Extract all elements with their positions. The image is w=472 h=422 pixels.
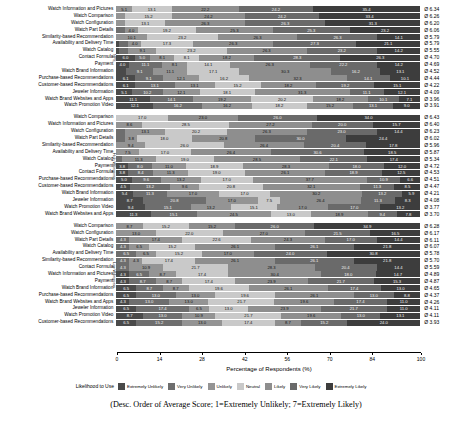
chart-row: Watch Promotion Video12.116.216.218.215.… bbox=[0, 102, 472, 109]
legend-item[interactable]: Very Likely bbox=[290, 383, 320, 390]
bar-segment: 19.6 bbox=[281, 313, 341, 319]
bar-segment: 26.3 bbox=[227, 48, 307, 54]
row-label: Watch Comparison bbox=[0, 223, 116, 230]
row-average: Ø 5.34 bbox=[420, 156, 472, 163]
bar-segment: 20.0 bbox=[312, 122, 373, 128]
bar-segment: 19.2 bbox=[138, 27, 196, 33]
row-label: Similarity-based Recommendation bbox=[0, 257, 116, 264]
row-label: Similarity-based Recommendation bbox=[0, 142, 116, 149]
bar-segment: 3.8 bbox=[116, 170, 128, 176]
row-label: Payment bbox=[0, 61, 116, 68]
bar-segment: 18.0 bbox=[321, 271, 376, 277]
bar-segment: 19.6 bbox=[189, 285, 249, 291]
chart-row: Purchase-based Recommendations6.19.112.1… bbox=[0, 75, 472, 82]
row-label: Payment bbox=[0, 278, 116, 285]
legend-item[interactable]: Unlikely bbox=[208, 383, 232, 390]
bar-segment: 20.8 bbox=[192, 135, 255, 141]
row-label: Customer-based Recommendations bbox=[0, 82, 116, 89]
row-label: Contact Formula bbox=[0, 169, 116, 176]
chart-row: Watch Part Details3.818.020.830.024.4Ø 6… bbox=[0, 135, 472, 142]
chart-row: Watch Part Details4.317.422.624.317.014.… bbox=[0, 237, 472, 244]
stacked-bar: 6.517.46.513.023.921.711.0 bbox=[116, 306, 420, 312]
bar-segment: 12.0 bbox=[384, 163, 420, 169]
x-tick-label: 28 bbox=[199, 356, 205, 362]
x-tick-label: 100 bbox=[417, 356, 425, 362]
bar-segment: 20.8 bbox=[143, 197, 206, 203]
stacked-bar: 6.515.213.017.48.715.224.0 bbox=[116, 320, 420, 326]
bar-segment: 10.1 bbox=[390, 75, 421, 81]
bar-segment: 28.3 bbox=[228, 264, 314, 270]
bar-segment: 14.4 bbox=[377, 237, 421, 243]
bar-segment: 15.2 bbox=[215, 82, 261, 88]
legend-title: Likelihood to Use bbox=[0, 383, 118, 389]
bar-segment: 10.9 bbox=[129, 264, 162, 270]
bar-segment: 17.4 bbox=[129, 237, 182, 243]
bar-segment: 34.9 bbox=[314, 223, 420, 229]
row-label: Watch Information and Pictures bbox=[0, 121, 116, 128]
chart-row: Payment4.38.78.717.423.921.715.3Ø 4.87 bbox=[0, 278, 472, 285]
bar-segment: 17.0 bbox=[219, 191, 271, 197]
bar-segment: 23.0 bbox=[307, 129, 377, 135]
bar-segment: 24.3 bbox=[251, 237, 325, 243]
bar-segment: 27.2 bbox=[229, 122, 312, 128]
bar-segment: 19.6 bbox=[215, 292, 275, 298]
row-average: Ø 6.11 bbox=[420, 237, 472, 244]
bar-segment: 19.0 bbox=[188, 170, 246, 176]
legend-item[interactable]: Likely bbox=[265, 383, 285, 390]
bar-segment: 17.0 bbox=[201, 177, 253, 183]
chart-row: Watch Part Details4.019.225.325.323.2Ø 6… bbox=[0, 27, 472, 34]
bar-segment: 8.7 bbox=[136, 285, 162, 291]
bar-segment: 6.5 bbox=[129, 271, 149, 277]
bar-segment: 6.1 bbox=[116, 75, 135, 81]
legend-item[interactable]: Very Unlikely bbox=[168, 383, 202, 390]
legend-item[interactable]: Neutral bbox=[237, 383, 260, 390]
bar-segment: 16.2 bbox=[153, 103, 202, 109]
chart-row: Watch Catalog4.36.515.226.126.121.8Ø 6.0… bbox=[0, 243, 472, 250]
legend-item[interactable]: Extremely Unlikely bbox=[118, 383, 163, 390]
bar-segment: 13.2 bbox=[161, 177, 201, 183]
bar-segment bbox=[119, 41, 128, 47]
bar-segment: 18.2 bbox=[261, 82, 316, 88]
bar-segment: 8.7 bbox=[129, 278, 155, 284]
bar-segment: 13.1 bbox=[380, 68, 420, 74]
bar-segment: 17.0 bbox=[325, 237, 377, 243]
row-average: Ø 4.37 bbox=[420, 292, 472, 299]
stacked-bar: 9.111.117.130.316.213.1 bbox=[116, 68, 420, 74]
row-label: Jeweler Information bbox=[0, 89, 116, 96]
row-label: Watch Catalog bbox=[0, 243, 116, 250]
stacked-bar: 13.022.027.021.516.5 bbox=[116, 230, 420, 236]
stacked-bar: 6.05.08.18.118.228.326.3 bbox=[116, 55, 420, 61]
row-average: Ø 5.87 bbox=[420, 149, 472, 156]
stacked-bar: 4.513.29.620.832.111.38.5 bbox=[116, 184, 420, 190]
legend-item[interactable]: Extremely Likely bbox=[326, 383, 367, 390]
legend: Likelihood to Use Extremely UnlikelyVery… bbox=[0, 380, 472, 392]
bar-segment: 18.1 bbox=[200, 89, 255, 95]
row-average: Ø 3.91 bbox=[420, 102, 472, 109]
bar-segment: 4.3 bbox=[116, 244, 129, 250]
x-tick-label: 42 bbox=[242, 356, 248, 362]
bar-segment: 26.1 bbox=[275, 292, 354, 298]
x-tick-label: 70 bbox=[327, 356, 333, 362]
row-label: Watch Promotion Video bbox=[0, 204, 116, 211]
x-axis-title: Percentage of Respondents (%) bbox=[117, 366, 421, 372]
bar-segment: 26.3 bbox=[193, 41, 273, 47]
bar-segment: 14.4 bbox=[377, 264, 421, 270]
bar-segment: 10.1 bbox=[116, 34, 147, 40]
bar-segment: 4.3 bbox=[116, 258, 129, 264]
chart-row: Purchase-based Recommendations5.09.613.2… bbox=[0, 176, 472, 183]
stacked-bar: 3.818.020.830.024.4 bbox=[116, 135, 420, 141]
bar-segment: 26.4 bbox=[224, 142, 304, 148]
bar-segment: 8.7 bbox=[116, 223, 142, 229]
likert-group: Watch Comparison8.715.215.226.034.9Ø 6.2… bbox=[0, 223, 472, 326]
x-tick-label: 14 bbox=[157, 356, 163, 362]
bar-segment: 13.0 bbox=[129, 299, 169, 305]
stacked-bar: 6.58.78.719.626.117.413.0 bbox=[116, 285, 420, 291]
bar-segment: 11.3 bbox=[133, 191, 167, 197]
row-label: Watch Comparison bbox=[0, 114, 116, 121]
legend-label: Very Unlikely bbox=[177, 384, 202, 389]
bar-segment: 30.0 bbox=[255, 135, 346, 141]
likert-group: Watch Information and Pictures5.113.122.… bbox=[0, 6, 472, 109]
bar-segment: 5.1 bbox=[116, 6, 132, 12]
bar-segment: 26.1 bbox=[245, 170, 324, 176]
bar-segment: 8.7 bbox=[156, 278, 182, 284]
